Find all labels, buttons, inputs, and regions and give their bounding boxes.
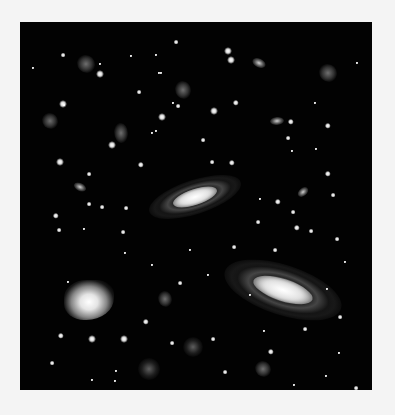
star: [58, 333, 64, 339]
star: [121, 230, 126, 235]
star: [31, 66, 34, 69]
irregular-galaxy: [158, 291, 172, 307]
star: [174, 40, 179, 45]
bright-nebula: [64, 280, 114, 320]
star: [108, 141, 116, 149]
star: [210, 160, 215, 165]
star: [129, 54, 132, 57]
star: [354, 386, 359, 390]
star: [288, 119, 294, 125]
irregular-galaxy: [114, 123, 128, 143]
irregular-galaxy: [42, 113, 58, 129]
star: [233, 100, 239, 106]
star: [57, 228, 62, 233]
star: [292, 383, 295, 386]
star: [355, 61, 358, 64]
star: [82, 227, 85, 230]
star: [87, 172, 92, 177]
star: [50, 361, 55, 366]
star: [158, 113, 166, 121]
star: [96, 70, 104, 78]
star: [120, 335, 128, 343]
diffuse-glow: [183, 337, 203, 357]
star: [188, 248, 191, 251]
star: [232, 245, 237, 250]
star: [206, 273, 209, 276]
irregular-galaxy: [77, 55, 95, 73]
elliptical-galaxy: [296, 185, 310, 199]
star: [313, 101, 316, 104]
star: [123, 251, 126, 254]
star: [98, 62, 101, 65]
star: [138, 162, 144, 168]
star: [325, 123, 331, 129]
star: [343, 260, 346, 263]
star: [309, 229, 314, 234]
star: [229, 160, 235, 166]
elliptical-galaxy: [72, 181, 87, 194]
star: [256, 220, 261, 225]
star: [88, 335, 96, 343]
star: [314, 147, 317, 150]
star: [154, 53, 157, 56]
star: [154, 129, 157, 132]
star: [90, 378, 93, 381]
star: [124, 206, 129, 211]
star: [113, 379, 116, 382]
star: [325, 171, 331, 177]
star: [337, 351, 340, 354]
star: [338, 315, 343, 320]
star: [211, 337, 216, 342]
star: [227, 56, 235, 64]
star: [286, 136, 291, 141]
star: [100, 205, 105, 210]
star: [137, 90, 142, 95]
irregular-galaxy: [175, 81, 191, 99]
star: [150, 131, 153, 134]
star: [53, 213, 59, 219]
star: [66, 280, 69, 283]
star: [275, 199, 281, 205]
star: [143, 319, 149, 325]
star: [258, 197, 261, 200]
star: [290, 149, 293, 152]
star: [159, 71, 162, 74]
diffuse-glow: [138, 358, 160, 380]
elliptical-galaxy: [251, 56, 267, 70]
irregular-galaxy: [319, 64, 337, 82]
star: [114, 369, 117, 372]
star: [210, 107, 218, 115]
star: [150, 263, 153, 266]
star: [303, 327, 308, 332]
star: [224, 47, 232, 55]
star: [87, 202, 92, 207]
star: [170, 341, 175, 346]
star: [171, 101, 174, 104]
star: [324, 374, 327, 377]
irregular-galaxy: [255, 361, 271, 377]
star: [59, 100, 67, 108]
star: [262, 329, 265, 332]
deep-space-image: [20, 22, 372, 390]
star: [56, 158, 64, 166]
star: [268, 349, 274, 355]
star: [201, 138, 206, 143]
star: [291, 210, 296, 215]
star: [61, 53, 66, 58]
star: [294, 225, 300, 231]
elliptical-galaxy: [270, 116, 285, 125]
star: [273, 248, 278, 253]
star: [331, 193, 336, 198]
star: [176, 104, 181, 109]
star: [335, 237, 340, 242]
star: [223, 370, 228, 375]
star: [178, 281, 183, 286]
